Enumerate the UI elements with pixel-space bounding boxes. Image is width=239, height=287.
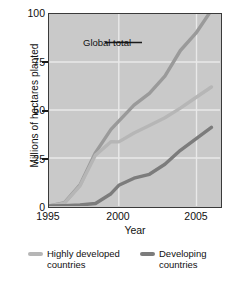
legend-swatch-icon (28, 252, 43, 256)
x-tick-label: 1995 (28, 210, 68, 222)
legend-label: Developing countries (159, 248, 239, 270)
x-tick-label: 2000 (98, 210, 138, 222)
x-tick-label: 2005 (176, 210, 216, 222)
annotation-global-total: Global total (83, 37, 131, 48)
y-tick-label: 100 (19, 7, 45, 19)
chart-svg (49, 14, 220, 206)
legend-swatch-icon (140, 252, 155, 256)
legend-item-highly-developed: Highly developed countries (28, 248, 133, 270)
plot-area (48, 13, 222, 208)
legend-label: Highly developed countries (47, 248, 133, 270)
chart-figure: Millions of hectares planted 100 75 50 2… (0, 0, 239, 287)
chart-legend: Highly developed countries Developing co… (0, 248, 239, 282)
legend-item-developing: Developing countries (140, 248, 239, 270)
x-axis-label: Year (48, 224, 222, 236)
y-axis-tick-labels: 100 75 50 25 0 (17, 0, 45, 287)
grid-horizontal (49, 62, 220, 158)
